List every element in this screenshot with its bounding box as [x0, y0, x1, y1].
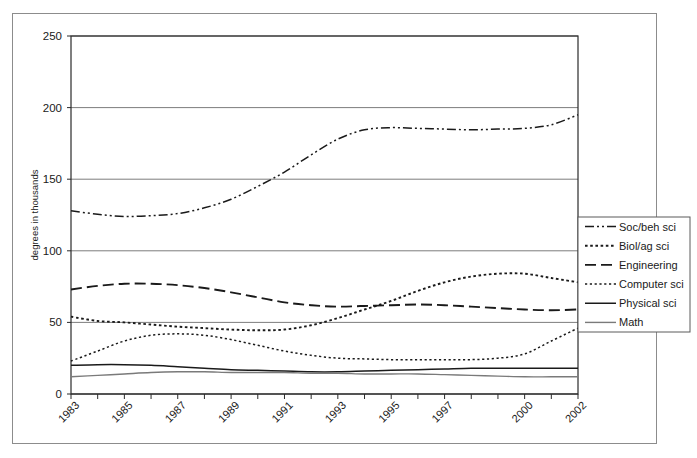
- y-tick-label: 200: [43, 102, 62, 114]
- y-axis-ticks: 050100150200250: [43, 30, 71, 400]
- x-tick-label: 2000: [509, 399, 535, 425]
- y-axis-label: degrees in thousands: [29, 169, 40, 260]
- x-tick-label: 1989: [216, 399, 242, 425]
- x-tick-label: 1993: [322, 399, 348, 425]
- line-chart: 050100150200250 degrees in thousands 198…: [0, 0, 697, 458]
- y-tick-label: 50: [49, 316, 62, 328]
- y-tick-label: 100: [43, 245, 62, 257]
- series-line-computer-sci: [71, 328, 578, 361]
- plot-area-border: [71, 36, 578, 394]
- figure-container: 050100150200250 degrees in thousands 198…: [0, 0, 697, 458]
- data-series-group: [71, 115, 578, 377]
- x-tick-label: 1983: [56, 399, 82, 425]
- y-tick-label: 250: [43, 30, 62, 42]
- series-line-soc-beh-sci: [71, 115, 578, 217]
- y-axis-title: degrees in thousands: [29, 169, 40, 260]
- legend-box: [578, 217, 690, 332]
- legend-label: Math: [619, 316, 643, 328]
- series-line-engineering: [71, 284, 578, 311]
- gridlines-group: [71, 36, 578, 394]
- plot-frame: [71, 36, 578, 394]
- series-line-physical-sci: [71, 365, 578, 372]
- x-tick-label: 1991: [269, 399, 295, 425]
- legend-label: Soc/beh sci: [619, 221, 676, 233]
- legend-label: Computer sci: [619, 278, 684, 290]
- legend-label: Physical sci: [619, 297, 676, 309]
- x-tick-label: 2002: [563, 399, 589, 425]
- y-tick-label: 150: [43, 173, 62, 185]
- x-tick-label: 1987: [162, 399, 188, 425]
- series-line-biol-ag-sci: [71, 273, 578, 330]
- legend-label: Engineering: [619, 259, 678, 271]
- chart-legend: Soc/beh sciBiol/ag sciEngineeringCompute…: [578, 217, 690, 332]
- x-axis-ticks: 1983198519871989199119931995199720002002: [56, 394, 589, 425]
- x-tick-label: 1985: [109, 399, 135, 425]
- x-tick-label: 1997: [429, 399, 455, 425]
- legend-label: Biol/ag sci: [619, 240, 669, 252]
- y-tick-label: 0: [56, 388, 62, 400]
- x-tick-label: 1995: [376, 399, 402, 425]
